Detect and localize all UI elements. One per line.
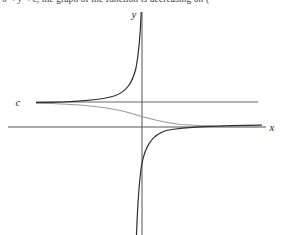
- curve-light-branch: [36, 103, 258, 127]
- curve-dark-right-branch: [137, 125, 263, 235]
- math-figure-graph: 0 < y < c, the graph of the function is …: [0, 0, 281, 235]
- coordinate-plot: c x y: [0, 0, 281, 235]
- asymptote-label-c: c: [16, 96, 21, 108]
- x-axis-label: x: [269, 121, 275, 133]
- y-axis-label: y: [131, 8, 137, 20]
- curve-dark-left-branch: [36, 12, 141, 103]
